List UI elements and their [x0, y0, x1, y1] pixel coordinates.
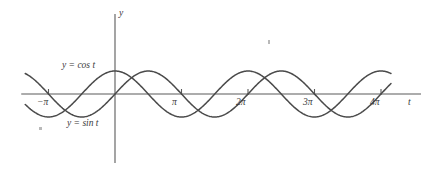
- xtick-label-4pi: 4π: [370, 98, 380, 108]
- t-axis-label: t: [408, 98, 411, 108]
- scan-speck-top: [268, 40, 270, 44]
- graph-figure: y t −π π 2π 3π 4π y = cos t y = sin t: [0, 0, 421, 172]
- xtick-label-pi: π: [172, 98, 177, 108]
- xtick-label-neg-pi: −π: [37, 98, 48, 108]
- xtick-label-3pi: 3π: [303, 98, 313, 108]
- cos-curve-label: y = cos t: [62, 61, 95, 71]
- sine-cosine-plot: [0, 0, 421, 172]
- y-axis-label: y: [119, 9, 123, 19]
- xtick-label-2pi: 2π: [236, 98, 246, 108]
- sin-curve-label: y = sin t: [67, 119, 98, 129]
- scan-speck-left: [39, 127, 42, 130]
